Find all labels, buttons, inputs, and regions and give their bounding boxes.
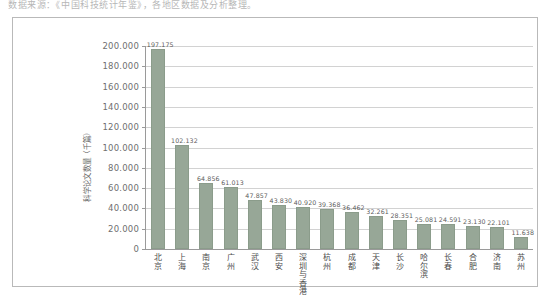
x-axis-category-label: 广州 [226, 254, 236, 271]
bar-group[interactable]: 28.351长沙 [393, 220, 407, 249]
bar-value-label: 47.857 [245, 192, 268, 199]
y-axis-tick-label: 180.000 [102, 61, 139, 71]
bar-group[interactable]: 22.101济南 [490, 227, 504, 249]
gridline [146, 66, 533, 67]
x-axis-category-label: 苏州 [516, 254, 526, 271]
y-axis-tick [142, 46, 146, 47]
y-axis-tick [142, 127, 146, 128]
y-axis-tick-label: 140.000 [102, 102, 139, 112]
bar[interactable] [296, 207, 310, 249]
bar-value-label: 43.830 [270, 197, 293, 204]
bar[interactable] [441, 224, 455, 249]
y-axis-tick [142, 107, 146, 108]
y-axis-tick-label: 80.000 [108, 163, 139, 173]
y-axis-tick-label: 120.000 [102, 122, 139, 132]
bar[interactable] [248, 200, 262, 249]
bar-value-label: 39.368 [318, 201, 341, 208]
y-axis-tick-label: 200.000 [102, 41, 139, 51]
x-axis-category-label: 哈尔滨 [419, 254, 429, 280]
bar-group[interactable]: 197.175北京 [151, 49, 165, 249]
gridline [146, 87, 533, 88]
bar-group[interactable]: 61.013广州 [224, 187, 238, 249]
x-axis-category-label: 上海 [177, 254, 187, 271]
bar-group[interactable]: 25.081哈尔滨 [417, 224, 431, 249]
y-axis-title: 科学论文数量（千篇） [81, 0, 93, 90]
x-axis-category-label: 西安 [274, 254, 284, 271]
y-axis-tick-label: 40.000 [108, 203, 139, 213]
y-axis-tick [142, 188, 146, 189]
bar-value-label: 28.351 [390, 212, 413, 219]
bar[interactable] [345, 212, 359, 249]
x-axis-category-label: 合肥 [468, 254, 478, 271]
bar-group[interactable]: 24.591长春 [441, 224, 455, 249]
bar-group[interactable]: 102.132上海 [175, 145, 189, 249]
figure-frame: 科学论文数量（千篇） 200.000180.000160.000140.0001… [12, 17, 538, 287]
y-axis-tick [142, 229, 146, 230]
x-axis-category-label: 武汉 [250, 254, 260, 271]
y-axis-title-label: 科学论文数量（千篇） [81, 90, 92, 240]
bar-value-label: 197.175 [147, 41, 174, 48]
bar-group[interactable]: 47.857武汉 [248, 200, 262, 249]
x-axis-category-label: 深圳与香港 [298, 254, 308, 296]
bar-group[interactable]: 11.638苏州 [514, 237, 528, 249]
bar-group[interactable]: 32.261天津 [369, 216, 383, 249]
bar-value-label: 102.132 [171, 137, 198, 144]
bar[interactable] [199, 183, 213, 249]
x-axis-category-label: 长春 [443, 254, 453, 271]
source-note-text: 数据来源：《中国科技统计年鉴》，各地区数据及分析整理。 [8, 0, 328, 11]
x-axis-category-label: 济南 [492, 254, 502, 271]
y-axis-tick [142, 87, 146, 88]
bar[interactable] [272, 205, 286, 249]
bar-group[interactable]: 40.920深圳与香港 [296, 207, 310, 249]
plot-area: 200.000180.000160.000140.000120.000100.0… [145, 46, 533, 250]
bar-value-label: 11.638 [511, 229, 534, 236]
bar-value-label: 25.081 [415, 216, 438, 223]
bar[interactable] [393, 220, 407, 249]
bar-value-label: 36.462 [342, 204, 365, 211]
bar[interactable] [224, 187, 238, 249]
bar-value-label: 61.013 [221, 179, 244, 186]
bar[interactable] [151, 49, 165, 249]
bar-value-label: 64.856 [197, 175, 220, 182]
bar-group[interactable]: 36.462成都 [345, 212, 359, 249]
bar-group[interactable]: 43.830西安 [272, 205, 286, 249]
x-axis-category-label: 长沙 [395, 254, 405, 271]
x-axis-category-label: 成都 [347, 254, 357, 271]
y-axis-tick [142, 249, 146, 250]
bar-group[interactable]: 39.368杭州 [320, 209, 334, 249]
bar-value-label: 23.130 [463, 218, 486, 225]
x-axis-category-label: 杭州 [322, 254, 332, 271]
bar-value-label: 32.261 [366, 208, 389, 215]
bar-value-label: 24.591 [439, 216, 462, 223]
bar[interactable] [514, 237, 528, 249]
gridline [146, 168, 533, 169]
bar[interactable] [175, 145, 189, 249]
y-axis-tick-label: 0 [133, 244, 139, 254]
bar-value-label: 22.101 [487, 219, 510, 226]
y-axis-tick-label: 20.000 [108, 224, 139, 234]
gridline [146, 148, 533, 149]
bar-group[interactable]: 64.856南京 [199, 183, 213, 249]
x-axis-category-label: 天津 [371, 254, 381, 271]
y-axis-tick-label: 60.000 [108, 183, 139, 193]
x-axis-category-label: 南京 [201, 254, 211, 271]
bar[interactable] [369, 216, 383, 249]
gridline [146, 127, 533, 128]
bar[interactable] [466, 226, 480, 249]
bar-value-label: 40.920 [294, 199, 317, 206]
y-axis-tick [142, 66, 146, 67]
bar[interactable] [320, 209, 334, 249]
y-axis-tick [142, 168, 146, 169]
y-axis-tick-label: 100.000 [102, 143, 139, 153]
gridline [146, 46, 533, 47]
x-axis-category-label: 北京 [153, 254, 163, 271]
y-axis-tick [142, 148, 146, 149]
bar-group[interactable]: 23.130合肥 [466, 226, 480, 249]
y-axis-tick [142, 208, 146, 209]
y-axis-tick-label: 160.000 [102, 82, 139, 92]
bar[interactable] [417, 224, 431, 249]
gridline [146, 107, 533, 108]
bar[interactable] [490, 227, 504, 249]
